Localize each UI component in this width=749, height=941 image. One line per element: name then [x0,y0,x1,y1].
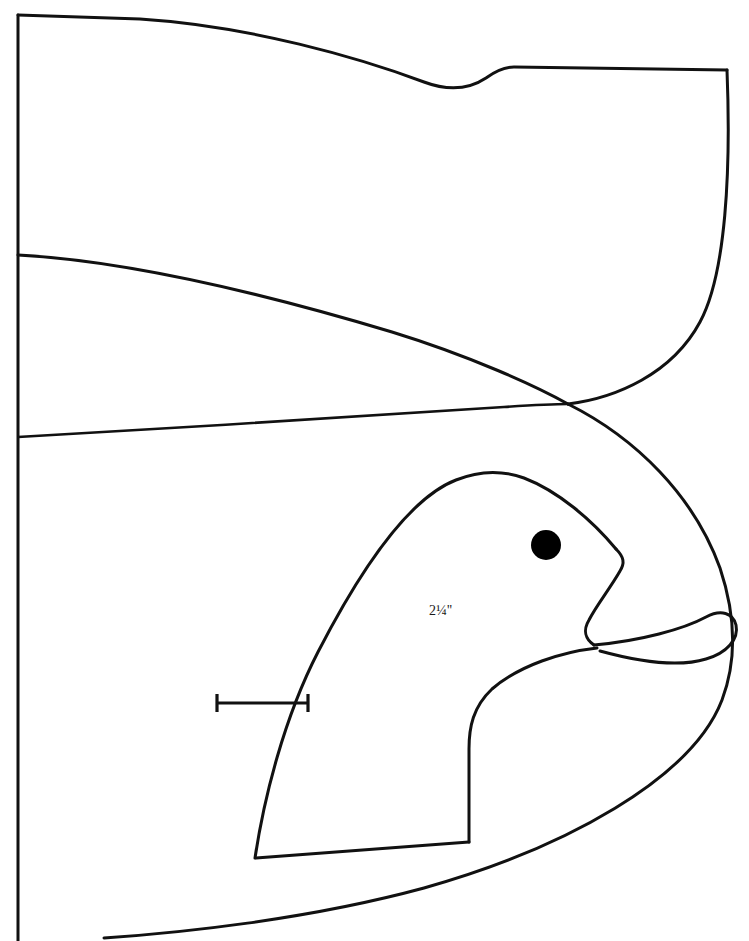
wing-upper-curve-path [18,255,568,404]
neck-base-line-path [256,842,469,858]
top-body-edge-path [18,15,727,88]
width-dimension-label: 2¼'' [429,603,452,619]
wing-lower-line-path [18,404,568,437]
beak-tip-path [594,613,736,663]
pattern-drawing [0,0,749,941]
pattern-canvas: 2¼'' [0,0,749,941]
eye-dot [531,530,561,560]
beak-upper-ridge-path [586,549,623,645]
outer-body-lower-path [104,404,733,938]
head-outline-path [255,473,616,858]
throat-inner-path [469,648,597,842]
right-body-edge-path [568,70,728,404]
